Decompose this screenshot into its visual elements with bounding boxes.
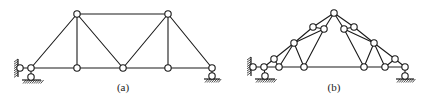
pin-joint-icon — [209, 73, 215, 79]
truss-member — [313, 13, 334, 27]
truss-member — [304, 29, 324, 67]
truss-panel-b: (b) — [247, 10, 415, 94]
pin-joint-icon — [351, 24, 357, 30]
pin-joint-icon — [262, 73, 268, 79]
panel-label-b: (b) — [328, 81, 341, 94]
truss-member — [77, 14, 123, 68]
pin-joint-icon — [120, 65, 126, 71]
truss-member — [344, 29, 364, 67]
pin-joint-icon — [361, 64, 367, 70]
members-a — [20, 14, 212, 77]
joints-a — [17, 11, 215, 80]
truss-member — [364, 43, 374, 67]
pin-joint-icon — [321, 26, 327, 32]
truss-member — [123, 14, 168, 68]
truss-panel-a: (a) — [14, 11, 221, 94]
truss-member — [279, 43, 294, 67]
pin-joint-icon — [371, 40, 377, 46]
pin-joint-icon — [341, 26, 347, 32]
pin-joint-icon — [74, 65, 80, 71]
pin-joint-icon — [209, 65, 215, 71]
pin-joint-icon — [291, 40, 297, 46]
pin-joint-icon — [28, 74, 34, 80]
truss-member — [31, 14, 77, 68]
pin-joint-icon — [382, 64, 388, 70]
pin-joint-icon — [301, 64, 307, 70]
pin-joint-icon — [331, 10, 337, 16]
pin-joint-icon — [276, 64, 282, 70]
pin-joint-icon — [261, 64, 267, 70]
supports-a — [14, 59, 221, 84]
truss-member — [294, 43, 304, 67]
pin-joint-icon — [310, 24, 316, 30]
pin-joint-icon — [28, 65, 34, 71]
pin-joint-icon — [165, 65, 171, 71]
pin-joint-icon — [402, 64, 408, 70]
pin-joint-icon — [392, 56, 398, 62]
panel-label-a: (a) — [117, 81, 130, 94]
pin-joint-icon — [271, 56, 277, 62]
truss-figure: (a) (b) — [0, 0, 425, 102]
truss-member — [294, 29, 324, 43]
pin-joint-icon — [17, 65, 23, 71]
truss-member — [274, 43, 294, 59]
pin-joint-icon — [165, 11, 171, 17]
truss-member — [168, 14, 212, 68]
pin-joint-icon — [74, 11, 80, 17]
pin-joint-icon — [250, 64, 256, 70]
pin-joint-icon — [402, 73, 408, 79]
